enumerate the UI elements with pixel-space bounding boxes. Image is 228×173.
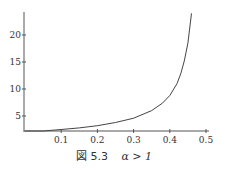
figure-label: 図 5.3 [76, 150, 108, 163]
y-tick-label: 10 [10, 84, 22, 94]
x-tick-label: 0.1 [54, 135, 68, 145]
y-tick-label: 15 [10, 57, 22, 67]
y-tick-label: 5 [15, 111, 21, 121]
y-tick-label: 20 [10, 30, 22, 40]
figure-condition: α > 1 [121, 150, 152, 163]
data-line [25, 13, 192, 131]
x-tick-label: 0.4 [163, 135, 178, 145]
axes: 0.10.20.30.40.55101520 [10, 12, 214, 145]
x-tick-label: 0.2 [90, 135, 104, 145]
x-tick-label: 0.5 [199, 135, 214, 145]
x-tick-label: 0.3 [126, 135, 141, 145]
figure-caption: 図 5.3 α > 1 [0, 147, 228, 163]
